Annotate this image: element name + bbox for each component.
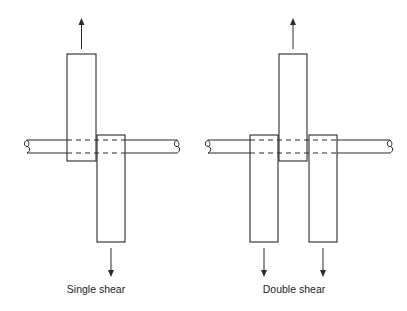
single-rod-break-left-icon: [24, 140, 29, 153]
double-arrowhead-down-icon: [320, 270, 326, 277]
double-plate-1: [279, 54, 307, 161]
shear-diagram-canvas: [0, 0, 407, 311]
double-arrowhead-down-icon: [261, 270, 267, 277]
double-plate-2: [309, 135, 337, 242]
double-plate-0: [250, 135, 278, 242]
double-rod-break-left-icon: [205, 140, 210, 153]
single-shear-caption: Single shear: [67, 283, 125, 295]
double-shear-caption: Double shear: [263, 283, 325, 295]
double-arrowhead-up-icon: [290, 18, 296, 25]
single-plate-0: [67, 54, 96, 161]
single-rod-break-right-icon: [174, 140, 179, 153]
single-arrowhead-up-icon: [79, 18, 85, 25]
single-arrowhead-down-icon: [108, 270, 114, 277]
double-rod-break-right-icon: [387, 140, 392, 153]
single-plate-1: [97, 135, 125, 242]
